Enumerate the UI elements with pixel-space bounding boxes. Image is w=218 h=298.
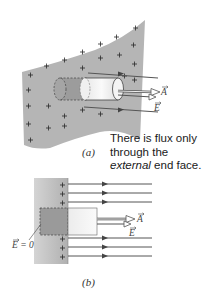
- gaussian-cylinder-outer: [80, 78, 124, 100]
- panel-b-label: (b): [82, 276, 95, 288]
- gaussian-cylinder-inner-b: [40, 208, 68, 235]
- label-e-vector-b: E: [128, 228, 135, 238]
- gaussian-cylinder-outer-b: [68, 208, 97, 235]
- caption-line-2: through the: [110, 146, 218, 160]
- panel-a-diagram: A E: [22, 20, 168, 149]
- panel-a-label: (a): [82, 146, 95, 158]
- caption-line-3: external end face.: [110, 159, 218, 173]
- label-e-vector: E: [153, 103, 160, 113]
- label-a-vector-b: A: [136, 214, 143, 224]
- caption-line-3-rest: end face.: [151, 159, 202, 171]
- panel-a-caption: There is flux only through the external …: [110, 132, 218, 173]
- label-a-vector: A: [160, 87, 167, 97]
- area-vector-a-b: [97, 216, 135, 223]
- label-e-zero: E = 0: [11, 240, 34, 250]
- caption-emphasis: external: [110, 159, 151, 171]
- panel-b-diagram: A E E = 0: [11, 178, 152, 264]
- caption-line-1: There is flux only: [110, 132, 218, 146]
- field-vector-e-b: [97, 221, 131, 227]
